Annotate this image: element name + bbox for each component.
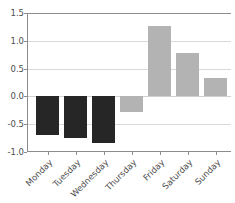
y-tick-label: 1.5 bbox=[0, 9, 24, 18]
gridline bbox=[27, 41, 231, 42]
x-tick-mark bbox=[188, 152, 189, 155]
bar-monday bbox=[36, 96, 59, 134]
x-tick-mark bbox=[104, 152, 105, 155]
plot-area bbox=[27, 13, 231, 152]
y-axis: 1.5 1.0 0.5 0.0 -0.5 -1.0 bbox=[0, 0, 24, 203]
bar-saturday bbox=[176, 53, 199, 96]
bar-tuesday bbox=[64, 96, 87, 138]
y-tick-label: 1.0 bbox=[0, 37, 24, 46]
x-tick-mark bbox=[216, 152, 217, 155]
y-tick-label: -1.0 bbox=[0, 148, 24, 157]
x-tick-mark bbox=[132, 152, 133, 155]
x-tick-mark bbox=[160, 152, 161, 155]
bar-friday bbox=[148, 26, 171, 96]
x-tick-mark bbox=[76, 152, 77, 155]
bar-chart: 1.5 1.0 0.5 0.0 -0.5 -1.0 Monday Tuesda bbox=[0, 0, 235, 203]
bar-thursday bbox=[120, 96, 143, 112]
y-tick-mark bbox=[24, 152, 27, 153]
y-tick-label: -0.5 bbox=[0, 120, 24, 129]
y-tick-label: 0.5 bbox=[0, 65, 24, 74]
y-tick-label: 0.0 bbox=[0, 92, 24, 101]
bar-sunday bbox=[204, 78, 227, 97]
x-tick-mark bbox=[48, 152, 49, 155]
bar-wednesday bbox=[92, 96, 115, 143]
gridline bbox=[27, 69, 231, 70]
